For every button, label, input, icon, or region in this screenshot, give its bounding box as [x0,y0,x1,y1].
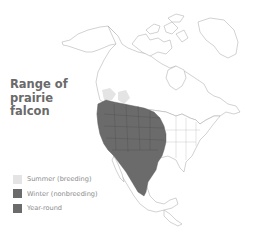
legend-label: Year-round [27,204,62,212]
title-line-2: prairie [10,92,80,106]
title-line-3: falcon [10,105,80,119]
legend-item-year-round: Year-round [13,201,98,216]
summer-swatch [13,175,22,184]
greenland [198,18,238,58]
central-america [164,210,182,226]
legend-label: Summer (breeding) [27,175,91,183]
map-title: Range of prairie falcon [10,78,80,119]
winter-swatch [13,189,22,198]
legend-item-summer: Summer (breeding) [13,172,98,187]
title-line-1: Range of [10,78,80,92]
year-round-swatch [13,204,22,213]
legend-label: Winter (nonbreeding) [27,190,98,198]
map-legend: Summer (breeding) Winter (nonbreeding) Y… [13,172,98,216]
legend-item-winter: Winter (nonbreeding) [13,187,98,202]
